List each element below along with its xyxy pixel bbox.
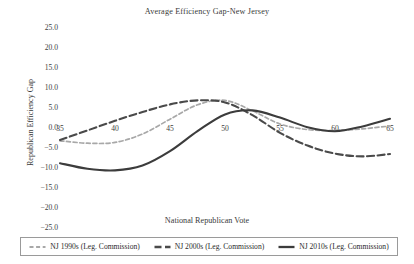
legend-swatch-line-icon [29, 244, 46, 250]
chart-figure: Average Efficiency Gap-New Jersey Republ… [0, 0, 414, 264]
legend-item[interactable]: NJ 1990s (Leg. Commission) [29, 242, 139, 251]
series-line-2 [60, 110, 390, 170]
legend-label: NJ 2000s (Leg. Commission) [175, 242, 264, 251]
legend-item[interactable]: NJ 2010s (Leg. Commission) [278, 242, 388, 251]
legend-item[interactable]: NJ 2000s (Leg. Commission) [154, 242, 264, 251]
legend-swatch-line-icon [278, 244, 295, 250]
plot-area [0, 0, 414, 264]
legend-label: NJ 2010s (Leg. Commission) [299, 242, 388, 251]
chart-legend: NJ 1990s (Leg. Commission)NJ 2000s (Leg.… [20, 237, 398, 256]
legend-label: NJ 1990s (Leg. Commission) [50, 242, 139, 251]
legend-swatch-line-icon [154, 244, 171, 250]
series-line-1 [60, 100, 390, 156]
